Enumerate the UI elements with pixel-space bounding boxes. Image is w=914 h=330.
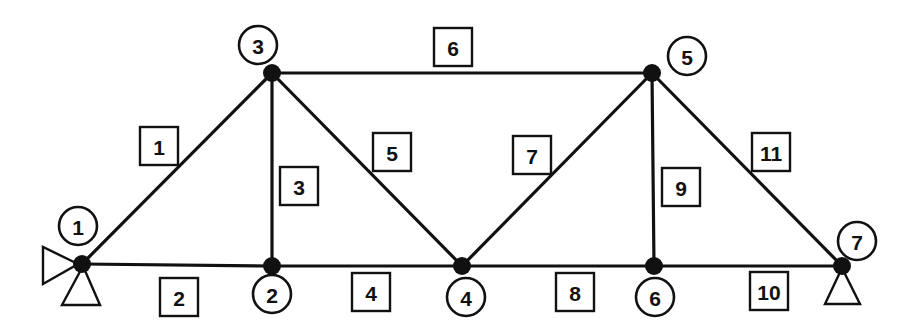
truss-diagram: 1234567891011 1234567 xyxy=(0,0,914,330)
node-label-3: 3 xyxy=(239,26,277,64)
joints-layer xyxy=(73,64,851,275)
member-label-3: 3 xyxy=(280,167,318,205)
member-7 xyxy=(462,73,652,266)
node-label-text: 7 xyxy=(851,231,863,254)
member-label-text: 10 xyxy=(757,281,780,304)
member-label-text: 5 xyxy=(386,142,398,165)
member-label-text: 7 xyxy=(526,145,538,168)
joint-node-2 xyxy=(263,257,281,275)
member-label-text: 6 xyxy=(447,37,459,60)
node-label-text: 3 xyxy=(252,35,264,58)
node-label-1: 1 xyxy=(59,207,97,245)
joint-node-3 xyxy=(263,64,281,82)
joint-node-1 xyxy=(73,255,91,273)
joint-node-7 xyxy=(833,257,851,275)
joint-node-6 xyxy=(645,257,663,275)
node-label-text: 2 xyxy=(266,284,278,307)
member-label-1: 1 xyxy=(140,127,178,165)
node-label-text: 4 xyxy=(460,287,472,310)
member-9 xyxy=(652,73,654,266)
member-label-8: 8 xyxy=(556,273,594,311)
member-label-text: 3 xyxy=(293,176,305,199)
member-label-9: 9 xyxy=(662,168,700,206)
joint-node-4 xyxy=(453,257,471,275)
node-label-7: 7 xyxy=(838,222,876,260)
member-label-6: 6 xyxy=(434,28,472,66)
node-label-2: 2 xyxy=(253,275,291,313)
node-label-4: 4 xyxy=(447,278,485,316)
member-label-text: 1 xyxy=(153,136,165,159)
truss-canvas: 1234567891011 1234567 xyxy=(0,0,914,330)
member-label-11: 11 xyxy=(752,133,790,171)
member-label-10: 10 xyxy=(750,272,788,310)
support-horizontal-node-1 xyxy=(43,247,78,284)
member-label-text: 4 xyxy=(365,282,377,305)
member-2 xyxy=(82,264,272,266)
members-layer xyxy=(82,73,842,266)
member-label-5: 5 xyxy=(373,133,411,171)
node-label-5: 5 xyxy=(668,37,706,75)
node-label-6: 6 xyxy=(636,278,674,316)
node-label-text: 6 xyxy=(649,287,661,310)
member-label-2: 2 xyxy=(160,278,198,316)
member-label-7: 7 xyxy=(513,136,551,174)
member-label-text: 8 xyxy=(569,282,581,305)
node-label-text: 1 xyxy=(72,216,84,239)
joint-node-5 xyxy=(643,64,661,82)
node-label-text: 5 xyxy=(681,46,693,69)
member-1 xyxy=(82,73,272,264)
member-label-text: 2 xyxy=(173,287,185,310)
member-label-text: 9 xyxy=(675,177,687,200)
member-label-text: 11 xyxy=(760,142,783,165)
member-label-4: 4 xyxy=(352,273,390,311)
